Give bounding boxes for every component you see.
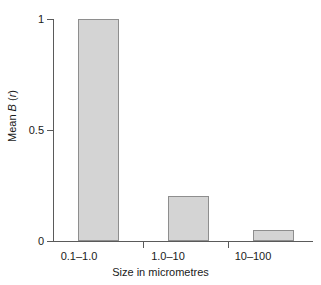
x-category-label-3: 10–100 bbox=[212, 250, 294, 262]
x-tick-mark-2 bbox=[228, 242, 229, 248]
x-category-label-2: 1.0–10 bbox=[127, 250, 209, 262]
y-tick-label-1: 1 bbox=[38, 14, 44, 25]
y-axis-title-open-paren: ( bbox=[6, 97, 18, 104]
plot-area bbox=[53, 19, 313, 241]
y-tick-label-0-5: 0.5 bbox=[29, 125, 44, 136]
x-axis-title: Size in micrometres bbox=[0, 266, 321, 278]
x-axis-line bbox=[53, 241, 313, 242]
y-axis-title-variable: r bbox=[6, 94, 18, 98]
y-axis-title-prefix: Mean bbox=[6, 111, 18, 142]
bar-chart: 1 0.5 0 0.1–1.0 1.0–10 10–100 Size in mi… bbox=[0, 0, 321, 285]
x-category-label-1: 0.1–1.0 bbox=[38, 250, 120, 262]
bar-category-1 bbox=[78, 19, 119, 241]
bar-category-3 bbox=[253, 230, 294, 241]
bar-category-2 bbox=[168, 196, 209, 241]
y-axis-title-close-paren: ) bbox=[6, 90, 18, 94]
y-axis-title-symbol: B bbox=[6, 104, 18, 111]
x-tick-mark-1 bbox=[143, 242, 144, 248]
y-axis-title: Mean B (r) bbox=[6, 56, 18, 176]
y-tick-label-0: 0 bbox=[38, 236, 44, 247]
